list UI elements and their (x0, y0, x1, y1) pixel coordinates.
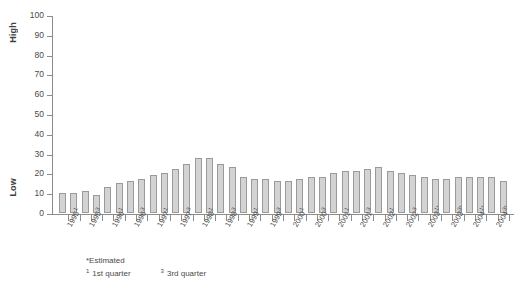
y-tick-mark (47, 56, 52, 57)
bar (195, 158, 202, 213)
footnote-estimated: *Estimated (86, 255, 206, 267)
bar (59, 193, 66, 213)
bar (240, 177, 247, 213)
bar (217, 164, 224, 214)
y-tick-label: 100 (30, 10, 44, 20)
footnote-q3-label: 3rd quarter (167, 268, 206, 280)
bar (104, 187, 111, 213)
bar (488, 177, 495, 213)
bar (443, 179, 450, 213)
y-axis-title-low: Low (8, 178, 18, 197)
y-tick-mark (47, 95, 52, 96)
x-tick-mark (102, 215, 103, 221)
footnote-q3-marker: 3 (161, 265, 164, 277)
y-tick-mark (47, 135, 52, 136)
bar (330, 173, 337, 213)
bar-chart: High Low 0102030405060708090100 19951199… (0, 0, 525, 291)
y-tick-mark (47, 214, 52, 215)
y-tick-mark (47, 155, 52, 156)
x-tick-mark (260, 215, 261, 221)
bar (206, 158, 213, 213)
plot-area: 0102030405060708090100 19951199531996119… (52, 16, 514, 214)
y-tick-mark (47, 16, 52, 17)
footnotes: *Estimated 1 1st quarter 3 3rd quarter (86, 255, 206, 280)
x-tick-mark (486, 215, 487, 221)
x-tick-mark (215, 215, 216, 221)
y-tick-mark (47, 194, 52, 195)
x-tick-mark (328, 215, 329, 221)
bar (285, 181, 292, 213)
y-tick-mark (47, 174, 52, 175)
y-axis-title-high: High (8, 22, 18, 43)
bar (127, 181, 134, 213)
y-tick-label: 80 (35, 50, 44, 60)
y-tick-label: 20 (35, 168, 44, 178)
footnote-q1-label: 1st quarter (92, 268, 130, 280)
bar (398, 173, 405, 213)
y-tick-mark (47, 115, 52, 116)
bar (262, 179, 269, 213)
y-tick-label: 30 (35, 149, 44, 159)
y-tick-label: 70 (35, 69, 44, 79)
bar (353, 171, 360, 213)
y-tick-mark (47, 75, 52, 76)
x-tick-mark (373, 215, 374, 221)
x-tick-mark (147, 215, 148, 221)
footnote-quarters: 1 1st quarter 3 3rd quarter (86, 268, 206, 280)
bar (466, 177, 473, 213)
bar (82, 191, 89, 213)
bar (308, 177, 315, 213)
bar (375, 167, 382, 213)
bar (150, 175, 157, 213)
x-tick-mark (170, 215, 171, 221)
y-tick-label: 50 (35, 109, 44, 119)
y-tick-label: 90 (35, 30, 44, 40)
y-axis-line (52, 16, 53, 215)
bar (172, 169, 179, 213)
y-tick-mark (47, 36, 52, 37)
y-tick-label: 60 (35, 89, 44, 99)
y-tick-label: 0 (39, 208, 44, 218)
bar (421, 177, 428, 213)
y-tick-label: 10 (35, 188, 44, 198)
footnote-q1-marker: 1 (86, 265, 89, 277)
x-tick-mark (441, 215, 442, 221)
y-tick-label: 40 (35, 129, 44, 139)
